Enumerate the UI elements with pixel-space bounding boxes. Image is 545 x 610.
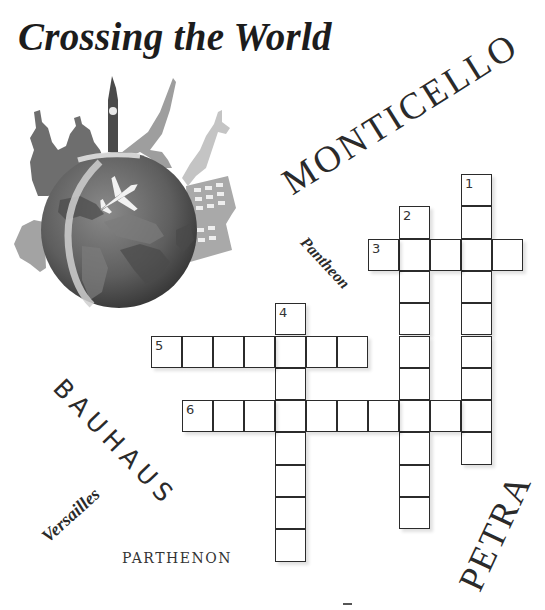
clue-number: 4 xyxy=(279,305,287,320)
crossword-cell[interactable] xyxy=(461,432,492,464)
crossword-cell[interactable] xyxy=(213,400,244,432)
crossword-cell[interactable] xyxy=(430,400,461,432)
crossword-cell[interactable]: 6 xyxy=(182,400,213,432)
clue-number: 6 xyxy=(186,402,194,417)
crossword-cell[interactable] xyxy=(461,239,492,271)
clue-number: 2 xyxy=(403,208,411,223)
crossword-cell[interactable] xyxy=(461,303,492,335)
crossword-cell[interactable] xyxy=(461,336,492,368)
crossword-cell[interactable] xyxy=(244,400,275,432)
crossword-cell[interactable] xyxy=(337,336,368,368)
crossword-cell[interactable] xyxy=(275,400,306,432)
crossword-cell[interactable] xyxy=(399,368,430,400)
crossword-cell[interactable] xyxy=(399,271,430,303)
crossword-cell[interactable] xyxy=(399,239,430,271)
crossword-cell[interactable] xyxy=(461,400,492,432)
crossword-grid: 123456 xyxy=(0,0,545,610)
crossword-cell[interactable] xyxy=(461,206,492,238)
crossword-cell[interactable] xyxy=(275,336,306,368)
crossword-cell[interactable] xyxy=(182,336,213,368)
crossword-cell[interactable] xyxy=(399,432,430,464)
glyph-fragment xyxy=(343,603,352,605)
crossword-cell[interactable] xyxy=(213,336,244,368)
clue-number: 3 xyxy=(372,241,380,256)
crossword-cell[interactable] xyxy=(275,529,306,561)
crossword-cell[interactable]: 3 xyxy=(368,239,399,271)
crossword-cell[interactable]: 1 xyxy=(461,174,492,206)
crossword-cell[interactable] xyxy=(399,497,430,529)
crossword-cell[interactable] xyxy=(399,303,430,335)
crossword-cell[interactable]: 4 xyxy=(275,303,306,335)
crossword-cell[interactable] xyxy=(368,400,399,432)
crossword-cell[interactable] xyxy=(275,465,306,497)
crossword-cell[interactable] xyxy=(275,432,306,464)
crossword-cell[interactable] xyxy=(399,400,430,432)
crossword-cell[interactable] xyxy=(461,368,492,400)
crossword-cell[interactable] xyxy=(461,271,492,303)
crossword-cell[interactable] xyxy=(306,400,337,432)
crossword-cell[interactable] xyxy=(399,465,430,497)
crossword-cell[interactable] xyxy=(275,368,306,400)
crossword-cell[interactable]: 2 xyxy=(399,206,430,238)
crossword-cell[interactable] xyxy=(492,239,523,271)
crossword-cell[interactable] xyxy=(399,336,430,368)
crossword-cell[interactable] xyxy=(337,400,368,432)
crossword-cell[interactable] xyxy=(275,497,306,529)
clue-number: 5 xyxy=(155,338,163,353)
crossword-cell[interactable]: 5 xyxy=(151,336,182,368)
crossword-cell[interactable] xyxy=(430,239,461,271)
crossword-cell[interactable] xyxy=(244,336,275,368)
crossword-cell[interactable] xyxy=(306,336,337,368)
clue-number: 1 xyxy=(465,176,473,191)
